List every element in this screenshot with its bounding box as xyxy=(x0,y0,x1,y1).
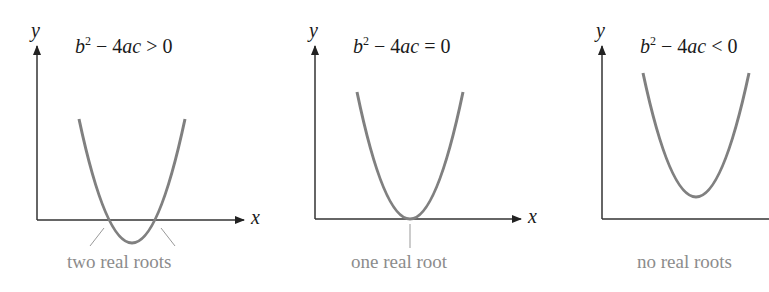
formula-ac: ac xyxy=(122,35,141,57)
panel-two-roots xyxy=(37,46,244,246)
caption: one real root xyxy=(351,251,447,273)
formula-coef: 4 xyxy=(390,35,400,57)
formula-rhs: 0 xyxy=(162,35,172,57)
formula-minus: − xyxy=(661,35,672,57)
discriminant-formula: b2 − 4ac < 0 xyxy=(640,35,737,58)
panel-one-root xyxy=(315,46,521,248)
y-axis-label: y xyxy=(596,19,605,42)
formula-rhs: 0 xyxy=(727,35,737,57)
formula-relation: = xyxy=(424,35,435,57)
formula-ac: ac xyxy=(400,35,419,57)
formula-exp: 2 xyxy=(363,34,369,48)
formula-coef: 4 xyxy=(112,35,122,57)
caption: no real roots xyxy=(637,251,732,273)
formula-rhs: 0 xyxy=(440,35,450,57)
y-axis-label: y xyxy=(309,19,318,42)
discriminant-formula: b2 − 4ac = 0 xyxy=(353,35,450,58)
formula-exp: 2 xyxy=(650,34,656,48)
y-axis-label: y xyxy=(31,19,40,42)
root-arrow-left xyxy=(90,228,104,246)
formula-b: b xyxy=(640,35,650,57)
formula-coef: 4 xyxy=(677,35,687,57)
formula-ac: ac xyxy=(687,35,706,57)
root-arrow-right xyxy=(161,228,175,246)
formula-relation: < xyxy=(711,35,722,57)
x-axis-label: x xyxy=(251,206,260,229)
formula-minus: − xyxy=(96,35,107,57)
caption: two real roots xyxy=(67,251,171,273)
formula-b: b xyxy=(353,35,363,57)
formula-relation: > xyxy=(146,35,157,57)
parabola-curve xyxy=(643,73,749,197)
x-axis-label: x xyxy=(528,205,537,228)
formula-b: b xyxy=(75,35,85,57)
discriminant-formula: b2 − 4ac > 0 xyxy=(75,35,172,58)
formula-exp: 2 xyxy=(85,34,91,48)
formula-minus: − xyxy=(374,35,385,57)
parabola-curve xyxy=(357,92,463,219)
parabola-curve xyxy=(79,119,185,243)
panel-no-roots xyxy=(602,46,769,219)
